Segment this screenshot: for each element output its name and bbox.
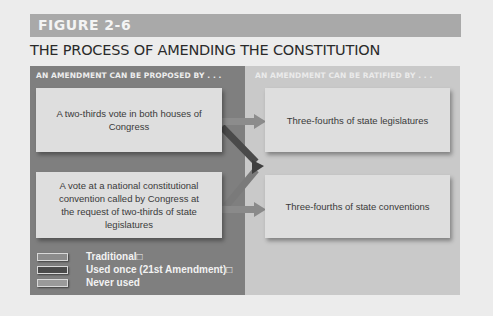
proposal-heading: AN AMENDMENT CAN BE PROPOSED BY . . . — [36, 71, 222, 80]
legend-swatch-traditional — [37, 253, 68, 261]
legend-label: Never used — [86, 277, 140, 288]
figure-header-bar: FIGURE 2-6 — [30, 14, 461, 37]
ratify-conventions-box: Three-fourths of state conventions — [265, 175, 450, 238]
ratify-legislatures-box: Three-fourths of state legislatures — [265, 88, 450, 152]
legend: Traditional□ Used once (21st Amendment)□… — [37, 250, 232, 289]
legend-item-used-once: Used once (21st Amendment)□ — [37, 263, 232, 276]
proposal-convention-box: A vote at a national constitutional conv… — [36, 172, 222, 238]
ratification-heading: AN AMENDMENT CAN BE RATIFIED BY . . . — [255, 71, 432, 80]
legend-label: Used once (21st Amendment)□ — [86, 264, 232, 275]
legend-swatch-never-used — [37, 279, 68, 287]
legend-item-traditional: Traditional□ — [37, 250, 232, 263]
legend-label: Traditional□ — [86, 251, 143, 262]
figure-label: FIGURE 2-6 — [38, 17, 131, 33]
figure-title: THE PROCESS OF AMENDING THE CONSTITUTION — [30, 42, 380, 58]
legend-item-never-used: Never used — [37, 276, 232, 289]
proposal-congress-box: A two-thirds vote in both houses of Cong… — [36, 88, 222, 152]
legend-swatch-used-once — [37, 266, 68, 274]
